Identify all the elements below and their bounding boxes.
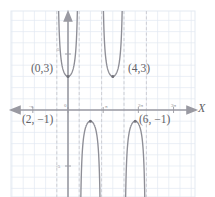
x-tick-label-zero: 0 [64, 103, 67, 108]
x-axis-label: X [198, 101, 205, 116]
annotation-point-0-3: (0,3) [31, 62, 53, 74]
chart-figure: (0,3) (4,3) (2, −1) (6, −1) -π 0 π 2π 3π… [0, 0, 215, 197]
x-tick-label-3pi: 3π [171, 103, 176, 108]
annotation-point-6-neg1: (6, −1) [139, 113, 170, 125]
x-tick-label-2pi: 2π [138, 103, 143, 108]
chart-canvas [0, 0, 215, 197]
x-tick-label-minus-pi: -π [29, 104, 33, 109]
annotation-point-2-neg1: (2, −1) [22, 113, 53, 125]
y-tick-label-minus-5: -5 [56, 164, 60, 169]
x-tick-label-pi: π [105, 104, 108, 109]
y-tick-label-5: 5 [57, 47, 60, 52]
annotation-point-4-3: (4,3) [128, 62, 150, 74]
